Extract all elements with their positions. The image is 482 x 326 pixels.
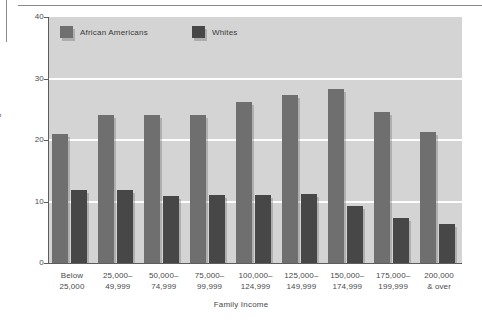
y-tick-mark — [44, 140, 49, 141]
bar-african-americans[interactable] — [98, 115, 114, 263]
legend-label-whites: Whites — [212, 28, 238, 37]
bar-group — [278, 17, 324, 263]
x-tick-label: Below25,000 — [49, 270, 95, 292]
x-tick-label: 150,000–174,999 — [324, 270, 370, 292]
x-axis-title: Family Income — [0, 300, 482, 309]
bar-african-americans[interactable] — [282, 95, 298, 263]
x-axis-line — [48, 263, 462, 264]
bar-group — [141, 17, 187, 263]
x-tick-label: 175,000–199,999 — [370, 270, 416, 292]
bar-group — [95, 17, 141, 263]
plot-inner — [49, 17, 462, 263]
bar-group — [233, 17, 279, 263]
x-tick-labels: Below25,00025,000–49,99950,000–74,99975,… — [49, 270, 462, 304]
bar-whites[interactable] — [71, 190, 87, 263]
bar-african-americans[interactable] — [144, 115, 160, 263]
legend-item-african-americans[interactable]: African Americans — [60, 26, 148, 38]
y-axis-title: Percentage — [0, 109, 1, 150]
plot-area — [49, 17, 462, 263]
bar-whites[interactable] — [163, 196, 179, 263]
y-tick-labels: 010203040 — [0, 0, 44, 326]
y-tick-mark — [44, 202, 49, 203]
x-tick-label: 75,000–99,999 — [187, 270, 233, 292]
bar-african-americans[interactable] — [236, 102, 252, 263]
y-tick-label: 10 — [0, 198, 44, 206]
bar-chart: 010203040 Percentage African Americans W… — [0, 0, 482, 326]
bar-african-americans[interactable] — [328, 89, 344, 263]
bar-group — [324, 17, 370, 263]
bar-whites[interactable] — [439, 224, 455, 263]
legend-swatch-icon-african-americans — [60, 26, 73, 38]
bar-african-americans[interactable] — [374, 112, 390, 263]
bar-african-americans[interactable] — [52, 134, 68, 263]
bar-group — [416, 17, 462, 263]
bar-whites[interactable] — [117, 190, 133, 263]
bar-whites[interactable] — [347, 206, 363, 263]
y-tick-mark — [44, 263, 49, 264]
legend-item-whites[interactable]: Whites — [192, 26, 238, 38]
y-tick-mark — [44, 17, 49, 18]
bar-group — [49, 17, 95, 263]
legend-label-african-americans: African Americans — [80, 28, 148, 37]
x-tick-label: 125,000–149,999 — [278, 270, 324, 292]
y-tick-label: 40 — [0, 13, 44, 21]
bar-african-americans[interactable] — [420, 132, 436, 263]
bar-whites[interactable] — [301, 194, 317, 263]
y-tick-mark — [44, 79, 49, 80]
bar-whites[interactable] — [209, 195, 225, 263]
x-tick-label: 25,000–49,999 — [95, 270, 141, 292]
bar-group — [187, 17, 233, 263]
bar-whites[interactable] — [255, 195, 271, 263]
x-tick-label: 50,000–74,999 — [141, 270, 187, 292]
x-tick-label: 100,000–124,999 — [233, 270, 279, 292]
bar-african-americans[interactable] — [190, 115, 206, 263]
legend-swatch-icon-whites — [192, 26, 205, 38]
y-tick-label: 20 — [0, 136, 44, 144]
y-tick-label: 30 — [0, 75, 44, 83]
chart-legend: African Americans Whites — [60, 26, 238, 38]
bar-group — [370, 17, 416, 263]
x-tick-label: 200,000& over — [416, 270, 462, 292]
y-tick-label: 0 — [0, 259, 44, 267]
bar-whites[interactable] — [393, 218, 409, 263]
